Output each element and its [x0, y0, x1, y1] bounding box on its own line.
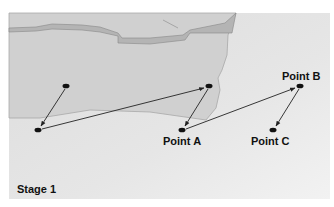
point-dot-3 [206, 84, 213, 89]
point-a-dot [179, 128, 186, 133]
point-c-label: Point C [251, 135, 290, 147]
point-b-label: Point B [282, 70, 321, 82]
point-dot-2 [35, 128, 42, 133]
diagram-canvas: Point B Point A Point C Stage 1 [0, 0, 334, 207]
point-dot-1 [63, 84, 70, 89]
diagram-svg [0, 0, 334, 207]
point-a-label: Point A [163, 135, 201, 147]
stage-label: Stage 1 [17, 183, 56, 195]
point-b-dot [297, 84, 304, 89]
point-c-dot [270, 128, 277, 133]
